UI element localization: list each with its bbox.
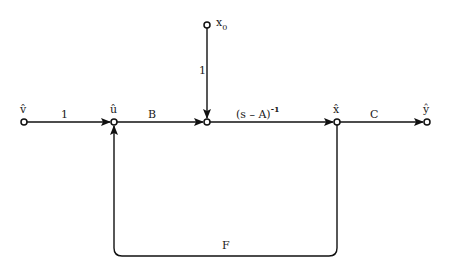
gain-u-sum: B bbox=[148, 108, 156, 121]
gain-v-u: 1 bbox=[61, 108, 68, 121]
gain-sum-x-base: (s – A) bbox=[236, 108, 271, 121]
node-label-u: û bbox=[110, 103, 117, 116]
gain-feedback: F bbox=[222, 239, 230, 252]
node-y bbox=[424, 119, 430, 125]
node-label-x: x̂ bbox=[333, 103, 340, 116]
node-label-y: ŷ bbox=[422, 103, 430, 116]
gain-sum-x-superscript: -1 bbox=[271, 104, 280, 114]
edge-feedback-x-to-u bbox=[114, 125, 337, 256]
signal-flow-graph: v̂ û x̂ ŷ x0 1 B 1 (s – A)-1 C F bbox=[0, 0, 452, 276]
node-u bbox=[111, 119, 117, 125]
node-label-x0-subscript: 0 bbox=[222, 23, 227, 32]
node-label-x0: x0 bbox=[216, 16, 227, 32]
node-label-v: v̂ bbox=[19, 103, 27, 116]
gain-sum-x: (s – A)-1 bbox=[236, 104, 280, 121]
node-sum bbox=[204, 119, 210, 125]
node-v bbox=[21, 119, 27, 125]
gain-x-y: C bbox=[370, 108, 378, 121]
node-x0 bbox=[204, 22, 210, 28]
node-x bbox=[334, 119, 340, 125]
gain-x0-sum: 1 bbox=[199, 64, 206, 77]
